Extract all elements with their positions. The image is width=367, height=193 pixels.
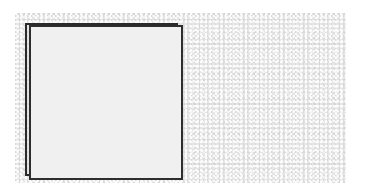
blank-square [29,25,183,180]
